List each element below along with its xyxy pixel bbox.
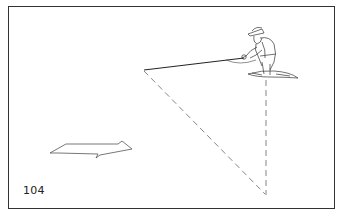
figure-number: 104 <box>23 184 45 197</box>
direction-arrow <box>50 141 132 158</box>
dashed-diagonal <box>144 71 265 194</box>
angler-figure <box>242 27 298 78</box>
fly-line <box>144 58 256 70</box>
illustration <box>0 0 344 218</box>
